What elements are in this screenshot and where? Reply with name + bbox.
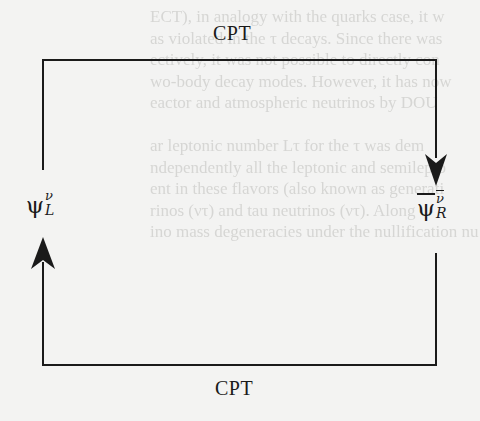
left-handed-state: ψ ν L [26,192,54,218]
state-indices: ν R [436,195,447,220]
top-connector [43,60,436,170]
subscript-l: L [45,203,54,217]
bottom-cpt-label: CPT [215,377,253,400]
right-handed-antistate: ψ ν R [417,195,447,221]
psi-symbol: ψ [26,192,44,218]
top-cpt-label: CPT [213,22,251,45]
bottom-connector [43,253,436,365]
psi-bar-symbol: ψ [417,195,435,221]
superscript-nu-bar: ν [436,192,447,205]
subscript-r: R [436,206,447,220]
arrow-down-icon [425,154,447,186]
state-indices: ν L [45,192,54,217]
superscript-nu: ν [45,189,54,202]
